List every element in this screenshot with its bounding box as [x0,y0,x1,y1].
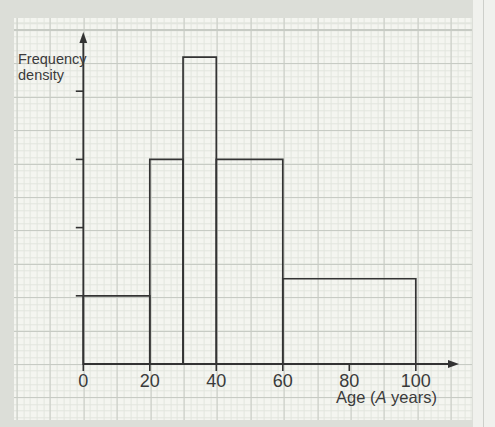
x-tick-label: 60 [273,371,293,391]
x-axis-arrow [448,360,459,368]
histogram-bar-30-40 [183,57,216,364]
x-axis-label: Age (A years) [336,388,436,407]
x-axis-label-variable: A [375,388,386,406]
y-axis-label: Frequency density [18,52,87,83]
x-tick-label: 20 [140,371,160,391]
scanned-page: 020406080100 Frequency density Age (A ye… [0,0,495,427]
histogram-bar-0-20 [83,296,150,364]
x-axis-label-prefix: Age ( [336,388,375,406]
x-tick-label: 0 [78,371,88,391]
x-tick-label: 40 [206,371,226,391]
x-axis-label-suffix: years) [386,388,436,406]
histogram-bar-20-30 [150,159,183,364]
histogram-bar-40-60 [216,159,282,364]
histogram-bar-60-100 [283,279,416,364]
y-axis-arrow [79,32,87,43]
